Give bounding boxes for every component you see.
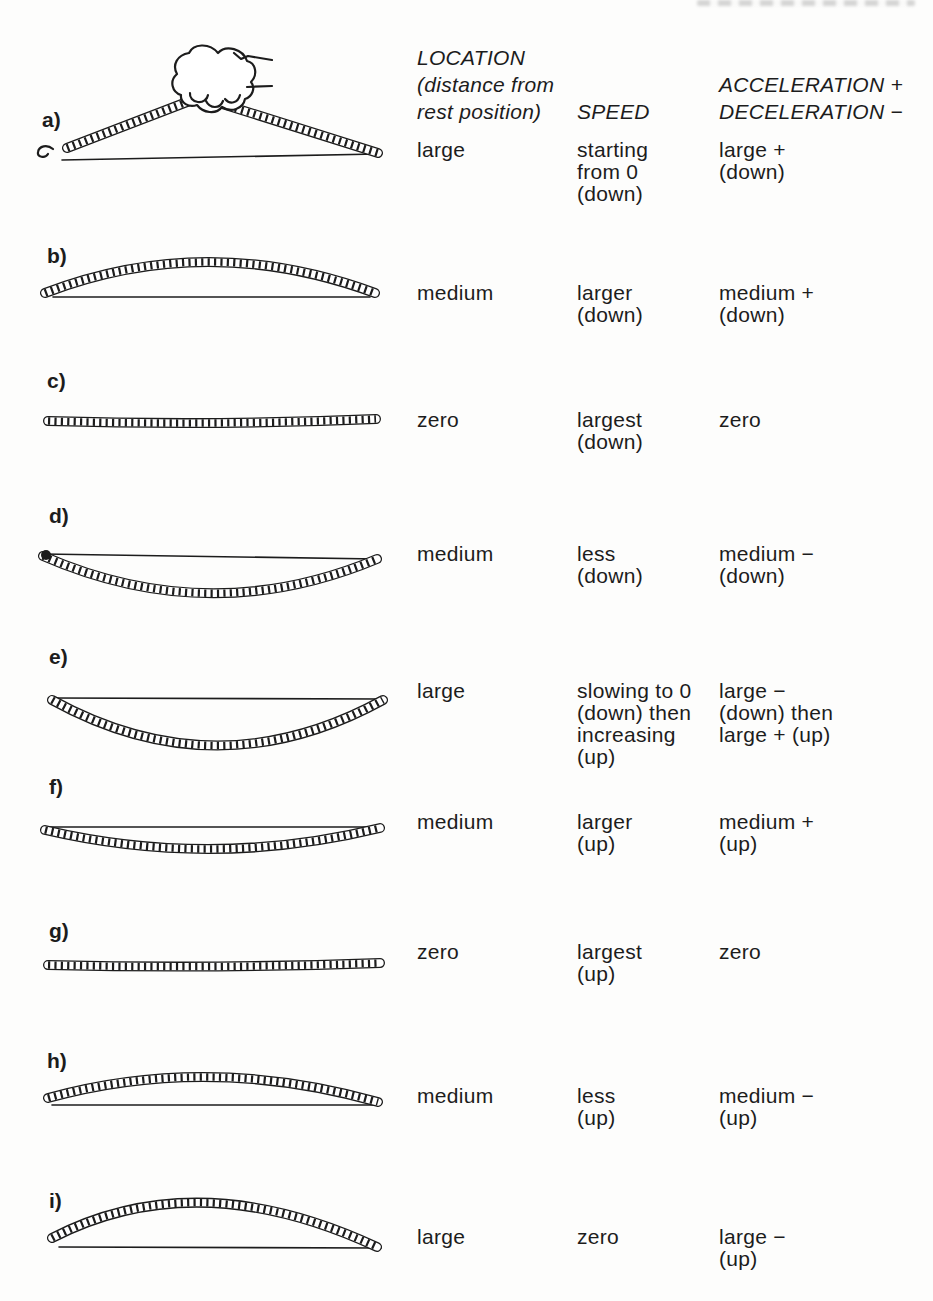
row-i-figure	[45, 1195, 385, 1260]
row-f-location: medium	[417, 811, 567, 833]
row-h-speed: less (up)	[577, 1085, 717, 1129]
row-e-location: large	[417, 680, 567, 702]
row-c-figure	[40, 405, 385, 435]
rest-position-line	[52, 698, 383, 699]
bent-ruler	[52, 1203, 377, 1247]
cropped-page-header-artifact	[697, 0, 915, 6]
row-a-speed: starting from 0 (down)	[577, 139, 717, 205]
bent-ruler	[45, 828, 380, 849]
rest-position-line	[62, 154, 378, 160]
row-d-acceleration: medium − (down)	[719, 543, 931, 587]
row-g-speed: largest (up)	[577, 941, 717, 985]
ruler-end-overlap-blob	[41, 550, 51, 560]
hand-icon	[172, 45, 272, 112]
row-g-acceleration: zero	[719, 941, 931, 963]
row-a-acceleration: large + (down)	[719, 139, 931, 183]
flat-ruler	[48, 419, 376, 423]
scanned-textbook-page: LOCATION (distance from rest position) S…	[0, 0, 933, 1301]
row-i-speed: zero	[577, 1226, 717, 1248]
row-g-label: g)	[49, 919, 69, 943]
row-b-figure	[35, 248, 385, 303]
row-f-speed: larger (up)	[577, 811, 717, 855]
column-header-speed: SPEED	[577, 98, 697, 125]
row-c-label: c)	[47, 369, 66, 393]
row-h-acceleration: medium − (up)	[719, 1085, 931, 1129]
bent-ruler	[43, 556, 377, 593]
row-b-acceleration: medium + (down)	[719, 282, 931, 326]
bent-ruler	[48, 1077, 378, 1102]
row-f-figure	[35, 812, 385, 857]
row-a-location: large	[417, 139, 567, 161]
row-c-acceleration: zero	[719, 409, 931, 431]
column-header-acceleration: ACCELERATION + DECELERATION −	[719, 71, 933, 125]
rest-position-line	[59, 1247, 381, 1248]
row-i-acceleration: large − (up)	[719, 1226, 931, 1270]
row-e-figure	[40, 650, 390, 755]
row-g-figure	[40, 950, 385, 980]
row-d-figure	[35, 540, 385, 600]
bent-ruler	[45, 262, 375, 293]
row-h-location: medium	[417, 1085, 567, 1107]
row-f-label: f)	[49, 775, 63, 799]
rest-position-line	[43, 554, 377, 559]
ruler-end-curl	[38, 146, 53, 157]
row-i-location: large	[417, 1226, 567, 1248]
row-c-speed: largest (down)	[577, 409, 717, 453]
column-header-location: LOCATION (distance from rest position)	[417, 44, 587, 125]
row-h-figure	[40, 1065, 385, 1115]
row-e-speed: slowing to 0 (down) then increasing (up)	[577, 680, 717, 768]
row-a-figure	[20, 35, 390, 165]
row-g-location: zero	[417, 941, 567, 963]
bent-ruler	[52, 700, 383, 746]
row-d-label: d)	[49, 504, 69, 528]
row-e-acceleration: large − (down) then large + (up)	[719, 680, 931, 746]
row-b-location: medium	[417, 282, 567, 304]
flat-ruler	[48, 963, 380, 967]
row-d-location: medium	[417, 543, 567, 565]
row-c-location: zero	[417, 409, 567, 431]
row-f-acceleration: medium + (up)	[719, 811, 931, 855]
row-b-speed: larger (down)	[577, 282, 717, 326]
row-d-speed: less (down)	[577, 543, 717, 587]
